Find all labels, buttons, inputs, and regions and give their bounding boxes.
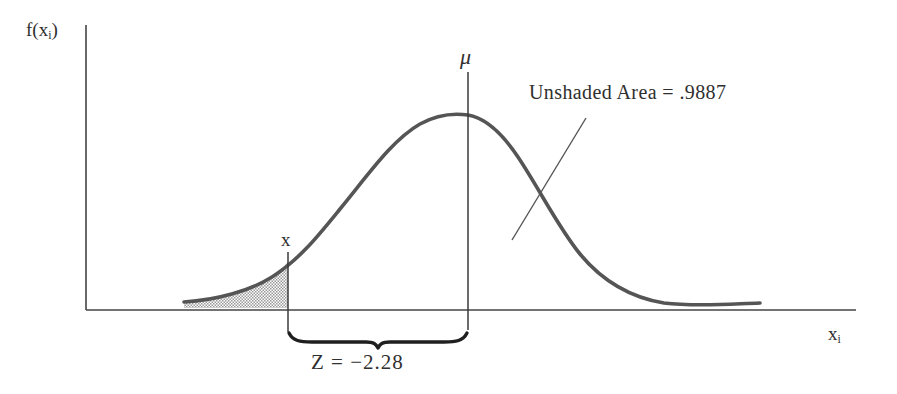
y-axis-label-text: f(x: [26, 19, 48, 40]
unshaded-area-annotation: Unshaded Area = .9887: [529, 82, 726, 102]
x-axis-label-subscript: i: [838, 333, 841, 346]
y-axis-label-close: ): [51, 19, 57, 40]
x-marker-label: x: [281, 230, 291, 249]
x-axis-label: xi: [828, 324, 841, 346]
normal-curve: [184, 114, 760, 305]
x-axis-label-text: x: [828, 323, 838, 344]
mean-symbol-label: μ: [460, 46, 471, 68]
z-brace: [289, 333, 467, 348]
normal-distribution-figure: [0, 0, 897, 394]
z-value-label: Z = −2.28: [311, 352, 404, 373]
annotation-leader-line: [512, 118, 586, 240]
y-axis-label: f(xi): [26, 20, 58, 42]
